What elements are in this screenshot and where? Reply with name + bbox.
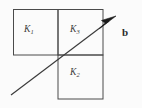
- vector-label-b: b: [122, 27, 128, 38]
- region-rect-k2: [58, 55, 103, 99]
- region-label-k2: K2: [70, 68, 80, 79]
- region-label-k3-subscript: 3: [77, 28, 80, 35]
- region-label-k3: K3: [70, 25, 80, 36]
- vector-arrow-head: [100, 16, 117, 29]
- geometry-figure: K1 K3 K2 b: [0, 0, 142, 108]
- region-label-k2-subscript: 2: [77, 71, 80, 78]
- figure-canvas: [0, 0, 142, 108]
- region-rect-k3: [58, 10, 103, 56]
- region-label-k2-base: K: [70, 67, 76, 77]
- region-rect-k1: [14, 10, 59, 56]
- region-label-k1: K1: [24, 25, 34, 36]
- region-label-k3-base: K: [70, 24, 76, 34]
- region-label-k1-subscript: 1: [31, 28, 34, 35]
- region-label-k1-base: K: [24, 24, 30, 34]
